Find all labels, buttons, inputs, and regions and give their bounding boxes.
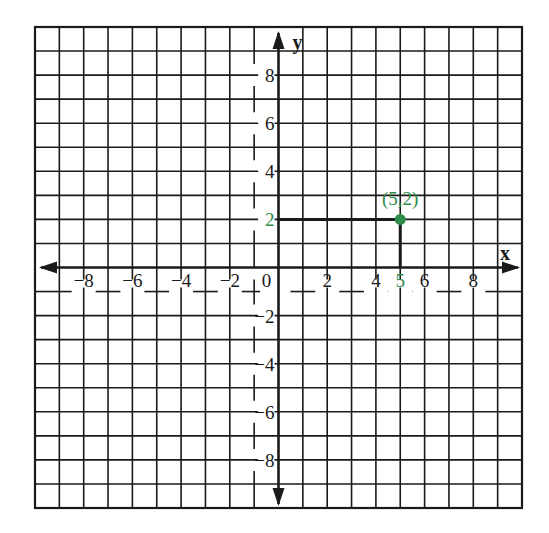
x-tick-label: 2: [322, 270, 332, 291]
y-tick-label: 4: [265, 161, 275, 182]
x-tick-label: 4: [371, 270, 381, 291]
y-tick-label: −2: [254, 306, 274, 327]
x-tick-label: −8: [74, 270, 94, 291]
x-tick-label: 6: [420, 270, 430, 291]
x-tick-label: −2: [220, 270, 240, 291]
x-tick-label: 0: [262, 270, 272, 291]
y-tick-label: 6: [265, 113, 275, 134]
y-axis-label: y: [293, 31, 303, 54]
y-tick-label: −4: [254, 354, 275, 375]
x-tick-label: 8: [469, 270, 479, 291]
y-tick-label: 8: [265, 65, 275, 86]
y-tick-label: −6: [254, 402, 274, 423]
x-tick-labels: −8−6−4−2024568: [74, 270, 478, 291]
plotted-point: [395, 214, 406, 225]
point-label: (5,2): [382, 188, 418, 210]
x-tick-label: 5: [396, 270, 406, 291]
y-tick-label: −8: [254, 450, 274, 471]
coordinate-plane: −8−6−4−2024568 8642−2−4−6−8 x y (5,2): [0, 0, 549, 533]
axes: [39, 31, 520, 506]
x-tick-label: −6: [122, 270, 142, 291]
x-axis-label: x: [500, 242, 510, 264]
x-tick-label: −4: [171, 270, 192, 291]
y-tick-label: 2: [265, 209, 275, 230]
